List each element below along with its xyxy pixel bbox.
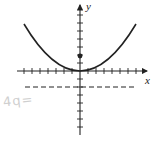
focus-point	[78, 54, 83, 59]
handwritten-note: 4q=	[2, 91, 34, 109]
y-axis-label: y	[85, 0, 91, 12]
x-axis-label: x	[144, 74, 150, 86]
parabola-graph: y x	[0, 0, 165, 149]
